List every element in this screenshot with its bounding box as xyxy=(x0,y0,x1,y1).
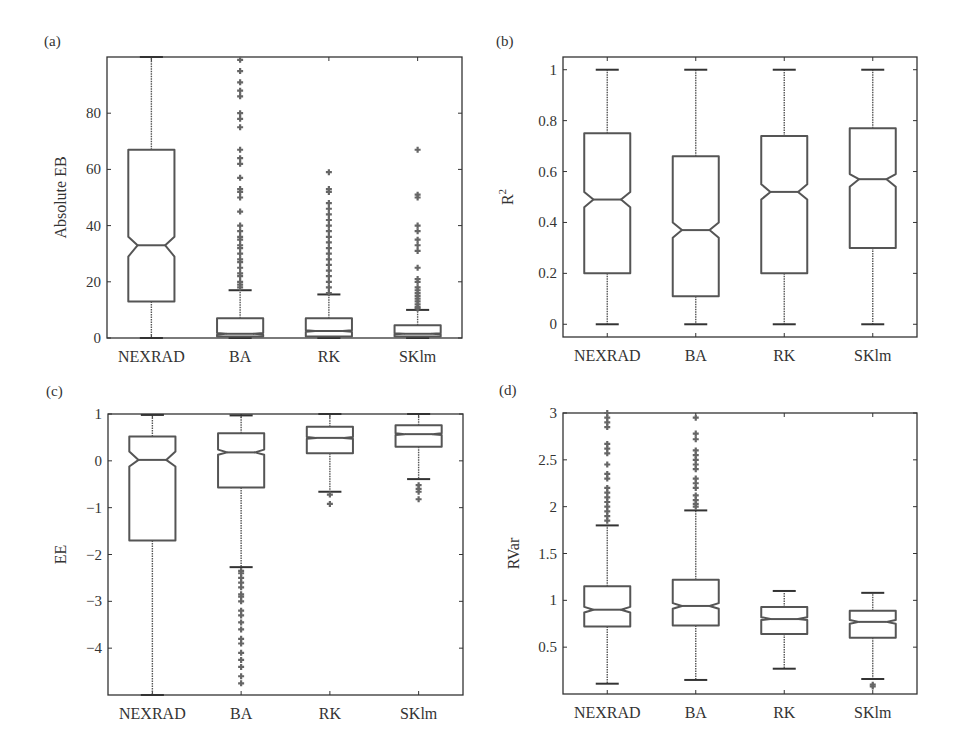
panel-label: (d) xyxy=(499,382,517,399)
outlier-marker xyxy=(326,239,332,245)
outlier-marker xyxy=(237,110,243,116)
outlier-marker xyxy=(326,279,332,285)
outlier-marker xyxy=(237,93,243,99)
outlier-marker xyxy=(237,228,243,234)
box-ba xyxy=(673,415,719,680)
outlier-marker xyxy=(238,626,244,632)
outlier-marker xyxy=(326,234,332,240)
figure-canvas: 020406080NEXRADBARKSKlm(a)Absolute EB 00… xyxy=(0,0,964,754)
box-nexrad xyxy=(584,70,630,325)
notched-box xyxy=(673,580,719,626)
outlier-marker xyxy=(237,223,243,229)
panel-d-rvar: 0.511.522.53NEXRADBARKSKlm(d)RVar xyxy=(499,382,917,721)
notched-box xyxy=(850,611,896,638)
notched-box xyxy=(306,318,352,336)
y-tick-label: 0.6 xyxy=(538,164,557,180)
outlier-marker xyxy=(604,485,610,491)
outlier-marker xyxy=(326,200,332,206)
y-tick-label: 0.2 xyxy=(538,265,557,281)
y-axis-label: RVar xyxy=(505,537,522,569)
outlier-marker xyxy=(237,147,243,153)
notched-box xyxy=(129,436,175,540)
outlier-marker xyxy=(237,116,243,122)
outlier-marker xyxy=(415,248,421,254)
x-category-label: BA xyxy=(229,348,252,365)
box-sklm xyxy=(850,593,896,690)
outlier-marker xyxy=(238,640,244,646)
outlier-marker xyxy=(326,206,332,212)
outlier-marker xyxy=(326,245,332,251)
x-category-label: SKlm xyxy=(399,348,437,365)
notched-box xyxy=(307,427,353,454)
outlier-marker xyxy=(237,265,243,271)
outlier-marker xyxy=(604,462,610,468)
outlier-marker xyxy=(415,147,421,153)
outlier-marker xyxy=(415,223,421,229)
outlier-marker xyxy=(326,284,332,290)
outlier-marker xyxy=(693,415,699,421)
outlier-marker xyxy=(326,256,332,262)
notched-box xyxy=(673,156,719,296)
outlier-marker xyxy=(693,476,699,482)
x-category-label: NEXRAD xyxy=(574,704,641,721)
y-tick-label: 0 xyxy=(95,453,103,469)
y-tick-label: −4 xyxy=(86,640,102,656)
notched-box xyxy=(584,586,630,626)
x-category-label: NEXRAD xyxy=(118,348,185,365)
outlier-marker xyxy=(415,242,421,248)
outlier-marker xyxy=(238,673,244,679)
panel-a-absolute-eb: 020406080NEXRADBARKSKlm(a)Absolute EB xyxy=(44,33,462,365)
y-tick-label: 1.5 xyxy=(538,546,557,562)
outlier-marker xyxy=(238,598,244,604)
notched-box xyxy=(396,425,442,447)
y-tick-label: 3 xyxy=(550,405,558,421)
y-tick-label: 40 xyxy=(86,218,101,234)
x-category-label: SKlm xyxy=(854,347,892,364)
notched-box xyxy=(128,150,174,302)
box-rk xyxy=(307,414,353,507)
outlier-marker xyxy=(693,492,699,498)
notched-box xyxy=(761,136,807,273)
outlier-marker xyxy=(327,501,333,507)
y-tick-label: 2.5 xyxy=(538,452,557,468)
outlier-marker xyxy=(238,664,244,670)
y-tick-label: −2 xyxy=(86,547,102,563)
outlier-marker xyxy=(326,262,332,268)
outlier-marker xyxy=(237,209,243,215)
box-sklm xyxy=(850,70,896,325)
outlier-marker xyxy=(237,124,243,130)
notched-box xyxy=(395,325,441,336)
notched-box xyxy=(218,433,264,487)
outlier-marker xyxy=(237,251,243,257)
outlier-marker xyxy=(237,88,243,94)
outlier-marker xyxy=(415,228,421,234)
box-nexrad xyxy=(584,410,630,684)
y-tick-label: 0 xyxy=(94,330,102,346)
box-rk xyxy=(761,70,807,325)
outlier-marker xyxy=(326,273,332,279)
panel-b-r-squared: 00.20.40.60.81NEXRADBARKSKlm(b)R2 xyxy=(496,33,917,364)
outlier-marker xyxy=(238,612,244,618)
outlier-marker xyxy=(238,680,244,686)
box-ba xyxy=(217,57,263,338)
box-sklm xyxy=(395,147,441,338)
y-axis-label: EE xyxy=(52,545,69,565)
outlier-marker xyxy=(326,251,332,257)
notched-box xyxy=(850,128,896,248)
y-tick-label: 0.5 xyxy=(538,639,557,655)
outlier-marker xyxy=(415,237,421,243)
outlier-marker xyxy=(326,169,332,175)
x-category-label: SKlm xyxy=(400,705,438,722)
outlier-marker xyxy=(693,431,699,437)
y-tick-label: 1 xyxy=(550,62,558,78)
box-nexrad xyxy=(129,415,175,695)
box-sklm xyxy=(396,414,442,502)
outlier-marker xyxy=(238,619,244,625)
x-category-label: RK xyxy=(318,348,341,365)
x-category-label: BA xyxy=(685,704,708,721)
notched-box xyxy=(584,133,630,273)
y-tick-label: −3 xyxy=(86,593,102,609)
y-tick-label: 60 xyxy=(86,161,101,177)
y-tick-label: 20 xyxy=(86,274,101,290)
panel-label: (c) xyxy=(46,383,63,400)
